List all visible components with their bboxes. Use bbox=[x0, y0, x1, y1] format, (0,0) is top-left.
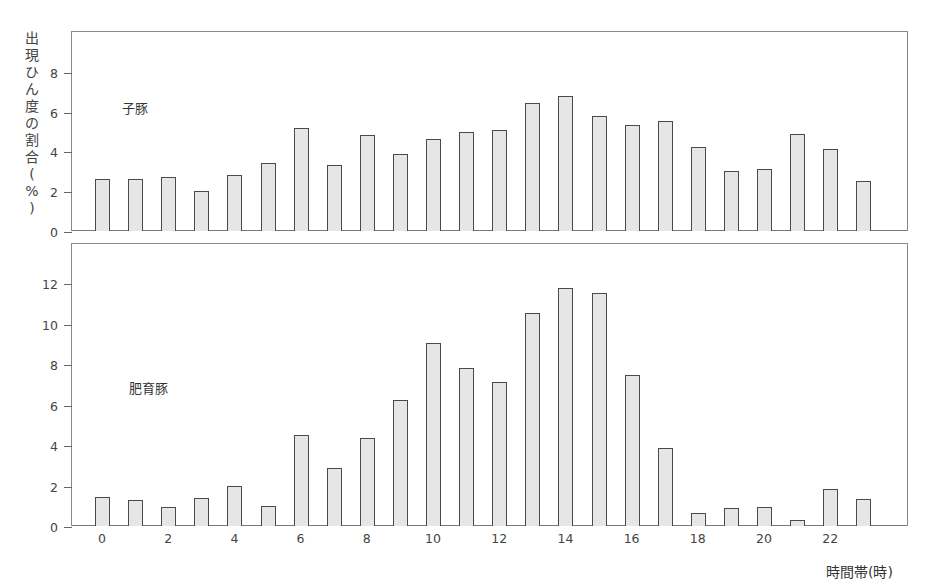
x-tick-label: 12 bbox=[491, 531, 507, 546]
y-tick-mark bbox=[64, 487, 72, 488]
bar-hour-22 bbox=[823, 489, 838, 526]
bar-hour-19 bbox=[724, 171, 739, 231]
x-tick-label: 0 bbox=[98, 531, 106, 546]
y-axis-label-char: ん bbox=[22, 81, 42, 98]
y-tick-mark bbox=[64, 284, 72, 285]
y-tick-mark bbox=[64, 325, 72, 326]
x-tick-label: 16 bbox=[624, 531, 640, 546]
bar-hour-9 bbox=[393, 400, 408, 526]
y-axis-label-char: 現 bbox=[22, 47, 42, 64]
x-tick-label: 18 bbox=[690, 531, 706, 546]
y-tick-label: 0 bbox=[28, 225, 58, 240]
x-tick-label: 2 bbox=[164, 531, 172, 546]
y-axis-label-char: 出 bbox=[22, 30, 42, 47]
series-label-fattening-pig: 肥育豚 bbox=[129, 378, 168, 397]
bar-hour-5 bbox=[261, 163, 276, 231]
bar-hour-19 bbox=[724, 508, 739, 526]
y-tick-mark bbox=[64, 192, 72, 193]
y-axis-label-char: ( bbox=[22, 166, 42, 183]
bar-hour-6 bbox=[294, 128, 309, 231]
x-tick-label: 8 bbox=[363, 531, 371, 546]
x-tick-label: 10 bbox=[425, 531, 441, 546]
bar-hour-12 bbox=[492, 382, 507, 526]
x-tick-label: 22 bbox=[822, 531, 838, 546]
y-tick-label: 6 bbox=[28, 105, 58, 120]
bar-hour-8 bbox=[360, 135, 375, 231]
bar-hour-3 bbox=[194, 498, 209, 526]
y-tick-mark bbox=[64, 73, 72, 74]
y-tick-label: 8 bbox=[28, 65, 58, 80]
bar-hour-16 bbox=[625, 375, 640, 526]
bar-hour-15 bbox=[592, 116, 607, 231]
y-tick-mark bbox=[64, 232, 72, 233]
y-tick-label: 0 bbox=[28, 520, 58, 535]
bar-hour-14 bbox=[558, 288, 573, 526]
bar-hour-2 bbox=[161, 507, 176, 526]
y-tick-label: 4 bbox=[28, 439, 58, 454]
bar-hour-13 bbox=[525, 313, 540, 526]
bar-hour-11 bbox=[459, 132, 474, 232]
bar-hour-21 bbox=[790, 520, 805, 526]
y-axis-label-char: ) bbox=[22, 200, 42, 217]
bar-hour-23 bbox=[856, 499, 871, 526]
bar-hour-20 bbox=[757, 507, 772, 526]
bar-hour-17 bbox=[658, 448, 673, 526]
bar-hour-22 bbox=[823, 149, 838, 231]
bar-hour-12 bbox=[492, 130, 507, 231]
bar-hour-23 bbox=[856, 181, 871, 231]
y-tick-mark bbox=[64, 406, 72, 407]
bar-hour-16 bbox=[625, 125, 640, 231]
bar-hour-5 bbox=[261, 506, 276, 526]
bar-hour-18 bbox=[691, 513, 706, 526]
bar-hour-0 bbox=[95, 497, 110, 526]
bar-hour-18 bbox=[691, 147, 706, 231]
y-tick-label: 6 bbox=[28, 398, 58, 413]
y-tick-label: 2 bbox=[28, 185, 58, 200]
bar-hour-15 bbox=[592, 293, 607, 526]
y-tick-label: 2 bbox=[28, 479, 58, 494]
bar-hour-4 bbox=[227, 175, 242, 231]
bar-hour-0 bbox=[95, 179, 110, 231]
y-tick-label: 12 bbox=[28, 277, 58, 292]
bar-hour-11 bbox=[459, 368, 474, 526]
bar-hour-13 bbox=[525, 103, 540, 231]
x-tick-label: 6 bbox=[297, 531, 305, 546]
bar-hour-9 bbox=[393, 154, 408, 231]
bar-hour-7 bbox=[327, 468, 342, 526]
y-tick-label: 10 bbox=[28, 317, 58, 332]
bar-hour-14 bbox=[558, 96, 573, 231]
bar-hour-2 bbox=[161, 177, 176, 231]
x-tick-label: 20 bbox=[756, 531, 772, 546]
y-tick-mark bbox=[64, 527, 72, 528]
bar-hour-3 bbox=[194, 191, 209, 231]
bar-hour-21 bbox=[790, 134, 805, 232]
bar-hour-10 bbox=[426, 139, 441, 231]
y-tick-mark bbox=[64, 446, 72, 447]
y-tick-label: 8 bbox=[28, 358, 58, 373]
bar-hour-6 bbox=[294, 435, 309, 526]
bar-hour-1 bbox=[128, 500, 143, 526]
bar-hour-17 bbox=[658, 121, 673, 231]
x-tick-label: 4 bbox=[230, 531, 238, 546]
y-tick-mark bbox=[64, 365, 72, 366]
series-label-piglet: 子豚 bbox=[122, 98, 148, 117]
bar-hour-1 bbox=[128, 179, 143, 231]
fattening-pig-chart: 肥育豚 024681012 bbox=[71, 243, 908, 526]
y-tick-mark bbox=[64, 152, 72, 153]
bar-hour-4 bbox=[227, 486, 242, 527]
bar-hour-7 bbox=[327, 165, 342, 231]
bar-hour-20 bbox=[757, 169, 772, 231]
x-axis-label: 時間帯(時) bbox=[826, 561, 893, 581]
bar-hour-8 bbox=[360, 438, 375, 526]
y-tick-label: 4 bbox=[28, 145, 58, 160]
y-tick-mark bbox=[64, 113, 72, 114]
bar-hour-10 bbox=[426, 343, 441, 526]
piglet-chart: 子豚 02468 bbox=[71, 31, 908, 231]
x-tick-label: 14 bbox=[557, 531, 573, 546]
